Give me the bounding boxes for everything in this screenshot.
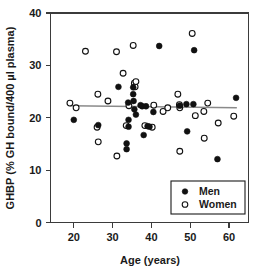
data-point-women: [165, 105, 171, 111]
women-points-group: [67, 31, 237, 159]
data-point-women: [114, 153, 120, 159]
data-point-men: [141, 132, 147, 138]
data-point-men: [95, 122, 101, 128]
x-tick-label: 30: [106, 231, 118, 243]
y-axis-title: GHBP (% GH bound/400 µl plasma): [4, 26, 16, 209]
legend-label-men: Men: [199, 185, 220, 197]
y-tick-label: 30: [29, 59, 41, 71]
x-axis-title: Age (years): [120, 254, 180, 266]
data-point-women: [151, 102, 157, 108]
data-point-women: [189, 31, 195, 37]
data-point-women: [201, 135, 207, 141]
data-point-men: [126, 124, 132, 130]
data-point-men: [130, 91, 136, 97]
data-point-women: [105, 98, 111, 104]
data-point-women: [177, 148, 183, 154]
x-tick-label: 20: [68, 231, 80, 243]
data-point-women: [175, 91, 181, 97]
x-tick-label: 40: [145, 231, 157, 243]
data-point-men: [124, 146, 130, 152]
data-point-men: [143, 103, 149, 109]
data-point-women: [67, 100, 73, 106]
data-point-men: [233, 95, 239, 101]
data-point-men: [130, 84, 136, 90]
data-point-women: [95, 91, 101, 97]
data-point-women: [130, 43, 136, 49]
plot-svg: 010203040 2030405060 Age (years) GHBP (%…: [0, 0, 264, 274]
y-tick-label: 0: [35, 217, 41, 229]
y-tick-label: 40: [29, 7, 41, 19]
data-point-men: [131, 106, 137, 112]
data-point-men: [156, 43, 162, 49]
legend-marker-men: [182, 189, 188, 195]
x-tick-label: 60: [223, 231, 235, 243]
data-point-women: [205, 100, 211, 106]
data-point-men: [133, 112, 139, 118]
data-point-women: [114, 49, 120, 55]
legend-marker-women: [182, 202, 188, 208]
data-point-men: [147, 124, 153, 130]
y-tick-label: 20: [29, 112, 41, 124]
data-point-men: [126, 117, 132, 123]
data-point-men: [215, 156, 221, 162]
data-point-men: [125, 100, 131, 106]
y-tick-label: 10: [29, 164, 41, 176]
data-point-men: [184, 128, 190, 134]
x-tick-group: 2030405060: [68, 223, 236, 243]
data-point-women: [201, 109, 207, 115]
data-point-men: [150, 109, 156, 115]
data-point-women: [133, 79, 139, 85]
x-tick-label: 50: [184, 231, 196, 243]
data-point-women: [73, 105, 79, 111]
scatter-plot-figure: 010203040 2030405060 Age (years) GHBP (%…: [0, 0, 264, 274]
data-point-women: [215, 120, 221, 126]
data-point-women: [192, 113, 198, 119]
data-point-men: [131, 98, 137, 104]
data-point-women: [95, 139, 101, 145]
data-point-men: [183, 101, 189, 107]
data-point-men: [190, 101, 196, 107]
data-point-women: [83, 48, 89, 54]
data-point-men: [124, 141, 130, 147]
data-point-men: [177, 103, 183, 109]
legend-label-women: Women: [199, 198, 237, 210]
data-point-men: [191, 47, 197, 53]
data-point-women: [231, 113, 237, 119]
data-point-men: [71, 117, 77, 123]
y-tick-group: 010203040: [29, 7, 50, 229]
data-point-men: [116, 84, 122, 90]
legend: Men Women: [171, 181, 245, 214]
data-point-women: [120, 70, 126, 76]
